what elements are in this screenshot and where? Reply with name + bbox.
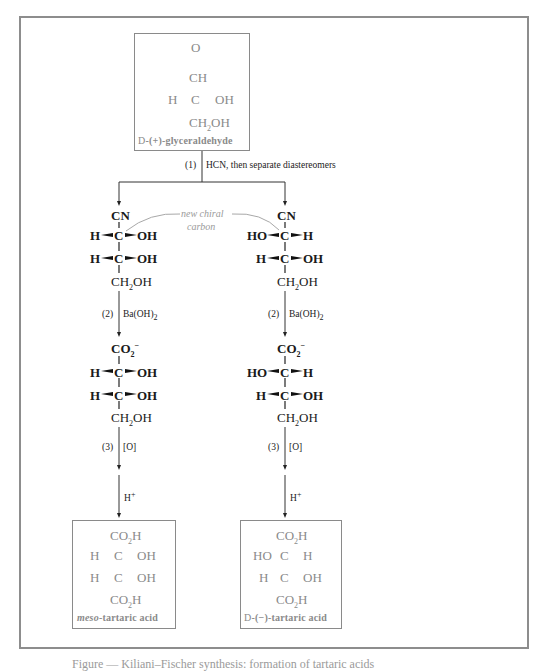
right-step2-reagent: Ba(OH)2 bbox=[289, 310, 324, 322]
left-step3-reagent: [O] bbox=[123, 443, 136, 453]
d-tartaric-r2-C: C bbox=[280, 571, 289, 584]
left-step4-reagent: H+ bbox=[124, 491, 135, 504]
new-chiral-carbon-label-line2: carbon bbox=[187, 222, 215, 232]
glyceraldehyde-H: H bbox=[168, 93, 177, 106]
left-cyanohydrin-r2-C: C bbox=[114, 252, 123, 265]
right-cyanohydrin-r2-C: C bbox=[280, 252, 289, 265]
right-carboxylate-r2-right: OH bbox=[303, 389, 323, 402]
left-carboxylate-CO2: CO2− bbox=[111, 342, 139, 359]
d-tartaric-acid-name: D-(−)-tartaric acid bbox=[244, 613, 327, 623]
right-carboxylate-CO2: CO2− bbox=[277, 342, 305, 359]
left-carboxylate-r1-C: C bbox=[114, 366, 123, 379]
meso-r2-C: C bbox=[114, 571, 123, 584]
left-step3-number: (3) bbox=[102, 443, 113, 453]
new-chiral-carbon-label-line1: new chiral bbox=[181, 209, 224, 219]
right-carboxylate-r1-C: C bbox=[280, 366, 289, 379]
figure-caption-cutoff: Figure — Kiliani–Fischer synthesis: form… bbox=[72, 657, 374, 672]
meso-name-rest: -tartaric acid bbox=[99, 612, 158, 623]
right-cyanohydrin-r1-left: HO bbox=[247, 229, 267, 242]
d-tartaric-r1-right: H bbox=[303, 549, 312, 562]
meso-italic: meso bbox=[77, 612, 99, 623]
right-cyanohydrin-r2-right: OH bbox=[303, 252, 323, 265]
meso-bottom-CO2H: CO2H bbox=[110, 593, 141, 610]
step1-number: (1) bbox=[185, 161, 196, 171]
right-carboxylate-CH2OH: CH2OH bbox=[277, 411, 318, 428]
right-step3-reagent: [O] bbox=[289, 443, 302, 453]
d-tartaric-name-rest: -(−)-tartaric acid bbox=[251, 612, 327, 623]
step1-reagent: HCN, then separate diastereomers bbox=[206, 161, 336, 171]
left-cyanohydrin-r1-C: C bbox=[114, 229, 123, 242]
meso-r1-right: OH bbox=[137, 549, 156, 562]
right-step2-number: (2) bbox=[268, 310, 279, 320]
glyceraldehyde-O: O bbox=[191, 41, 200, 54]
meso-tartaric-acid-name: meso-tartaric acid bbox=[77, 613, 158, 623]
right-cyanohydrin-CH2OH: CH2OH bbox=[277, 275, 318, 292]
glyceraldehyde-C: C bbox=[191, 93, 200, 106]
left-step2-reagent: Ba(OH)2 bbox=[123, 310, 158, 322]
glyceraldehyde-name-rest: -(+)-glyceraldehyde bbox=[145, 135, 232, 146]
left-cyanohydrin-r1-left: H bbox=[90, 229, 100, 242]
glyceraldehyde-OH: OH bbox=[215, 93, 234, 106]
left-carboxylate-r1-right: OH bbox=[137, 366, 157, 379]
left-carboxylate-r1-left: H bbox=[90, 366, 100, 379]
glyceraldehyde-CH2OH: CH2OH bbox=[189, 116, 230, 133]
meso-r1-C: C bbox=[114, 549, 123, 562]
d-tartaric-r2-right: OH bbox=[303, 571, 322, 584]
right-carboxylate-r2-left: H bbox=[256, 389, 266, 402]
left-carboxylate-r2-left: H bbox=[90, 389, 100, 402]
glyceraldehyde-CH: CH bbox=[189, 71, 207, 84]
right-carboxylate-r2-C: C bbox=[280, 389, 289, 402]
d-tartaric-r1-C: C bbox=[280, 549, 289, 562]
left-carboxylate-r2-C: C bbox=[114, 389, 123, 402]
right-cyanohydrin-r1-C: C bbox=[280, 229, 289, 242]
d-tartaric-top-CO2H: CO2H bbox=[276, 529, 307, 546]
glyceraldehyde-name: D-(+)-glyceraldehyde bbox=[138, 136, 233, 146]
meso-r2-left: H bbox=[90, 571, 99, 584]
d-tartaric-bottom-CO2H: CO2H bbox=[276, 593, 307, 610]
right-carboxylate-r1-right: H bbox=[303, 366, 313, 379]
right-carboxylate-r1-left: HO bbox=[247, 366, 267, 379]
d-tartaric-r2-left: H bbox=[259, 571, 268, 584]
meso-r1-left: H bbox=[90, 549, 99, 562]
left-cyanohydrin-CN: CN bbox=[111, 209, 130, 222]
right-step3-number: (3) bbox=[268, 443, 279, 453]
right-cyanohydrin-r1-right: H bbox=[303, 229, 313, 242]
d-tartaric-r1-left: HO bbox=[253, 549, 272, 562]
left-carboxylate-r2-right: OH bbox=[137, 389, 157, 402]
left-cyanohydrin-r2-right: OH bbox=[137, 252, 157, 265]
left-cyanohydrin-r2-left: H bbox=[90, 252, 100, 265]
meso-r2-right: OH bbox=[137, 571, 156, 584]
left-cyanohydrin-CH2OH: CH2OH bbox=[111, 275, 152, 292]
meso-top-CO2H: CO2H bbox=[110, 529, 141, 546]
left-cyanohydrin-r1-right: OH bbox=[137, 229, 157, 242]
right-cyanohydrin-r2-left: H bbox=[256, 252, 266, 265]
left-carboxylate-CH2OH: CH2OH bbox=[111, 411, 152, 428]
left-step2-number: (2) bbox=[102, 310, 113, 320]
right-cyanohydrin-CN: CN bbox=[277, 209, 296, 222]
right-step4-reagent: H+ bbox=[290, 491, 301, 504]
